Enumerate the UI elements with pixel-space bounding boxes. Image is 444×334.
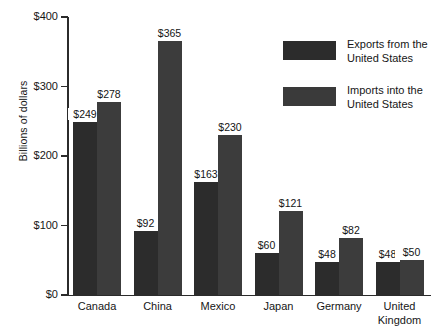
bar-value-label: $230 bbox=[213, 121, 247, 133]
bar bbox=[315, 262, 339, 295]
bar bbox=[194, 182, 218, 295]
legend-swatch-exports bbox=[283, 41, 336, 60]
bar bbox=[279, 211, 303, 295]
category-label: United Kingdom bbox=[362, 300, 438, 327]
bar bbox=[218, 135, 242, 295]
y-tick-mark bbox=[61, 16, 68, 18]
y-tick-mark bbox=[61, 225, 68, 227]
bar bbox=[73, 122, 97, 295]
bar-value-label: $121 bbox=[274, 197, 308, 209]
legend-label-imports: Imports into the United States bbox=[347, 83, 444, 111]
bar bbox=[376, 262, 400, 295]
y-tick-label: $100 bbox=[0, 219, 58, 231]
y-tick-label: $400 bbox=[0, 10, 58, 22]
bar-value-label: $278 bbox=[92, 88, 126, 100]
bar-value-label: $82 bbox=[334, 224, 368, 236]
bar bbox=[97, 102, 121, 295]
bar-value-label: $50 bbox=[395, 246, 429, 258]
bar bbox=[400, 260, 424, 295]
y-axis-title: Billions of dollars bbox=[17, 51, 29, 191]
y-tick-label: $300 bbox=[0, 80, 58, 92]
bar-chart: Billions of dollars $400$300$200$100$0 $… bbox=[0, 0, 444, 334]
y-tick-mark bbox=[61, 155, 68, 157]
bar bbox=[134, 231, 158, 295]
y-tick-label: $0 bbox=[0, 288, 58, 300]
bar bbox=[255, 253, 279, 295]
y-tick-mark bbox=[61, 86, 68, 88]
legend-swatch-imports bbox=[283, 87, 336, 106]
legend-label-exports: Exports from the United States bbox=[347, 37, 444, 65]
bar bbox=[339, 238, 363, 295]
y-tick-mark bbox=[61, 294, 68, 296]
y-tick-label: $200 bbox=[0, 149, 58, 161]
bar-value-label: $365 bbox=[153, 27, 187, 39]
bar bbox=[158, 41, 182, 295]
